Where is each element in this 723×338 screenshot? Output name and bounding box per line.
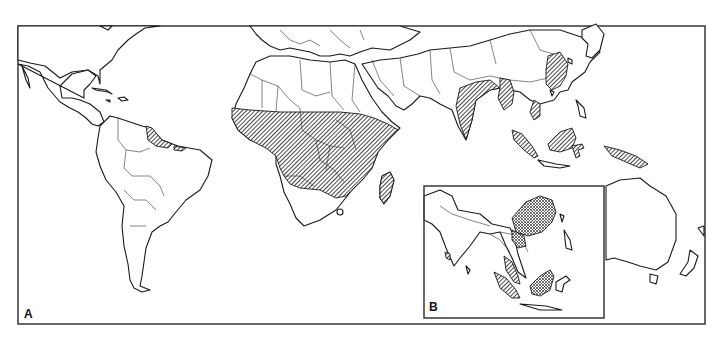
india-shaded (456, 80, 500, 140)
north-america (18, 26, 160, 126)
south-america (96, 116, 212, 292)
madagascar-shaded (380, 172, 394, 204)
panel-a-label: A (24, 307, 33, 321)
sub-saharan-africa-shaded (232, 108, 398, 198)
sumatra-shaded (512, 130, 538, 158)
world-map (0, 0, 723, 338)
vietnam-shaded (530, 100, 540, 120)
inset-b (424, 186, 604, 318)
australia (606, 178, 704, 284)
se-asia-islands (512, 90, 648, 168)
europe (250, 26, 420, 56)
new-guinea-shaded (604, 146, 648, 168)
borneo-shaded (548, 128, 576, 152)
panel-b-label: B (429, 300, 438, 314)
sulawesi-shaded (572, 144, 584, 158)
